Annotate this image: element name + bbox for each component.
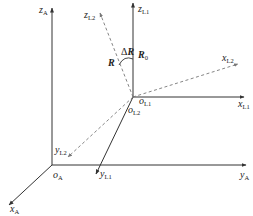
delta-r-label: ΔR: [121, 46, 134, 57]
yl1-label: yL1: [99, 168, 112, 180]
xl2-axis: [133, 64, 238, 97]
coordinate-frames-diagram: zA yA xA oA zL1 xL1 yL1 oL1 zL2 xL2 yL2 …: [0, 0, 253, 216]
zl1-label: zL1: [137, 3, 149, 15]
r0-label: R0: [137, 49, 148, 61]
xl2-label: xL2: [221, 52, 234, 64]
yl2-label: yL2: [54, 144, 67, 156]
frame-l2: zL2 xL2 yL2 oL2: [54, 9, 238, 157]
xa-axis: [9, 165, 52, 205]
xa-label: xA: [9, 203, 19, 215]
xl1-label: xL1: [237, 98, 250, 110]
oa-label: oA: [53, 169, 63, 181]
ya-label: yA: [239, 169, 249, 181]
rotation-annotation: R ΔR R0: [107, 46, 148, 68]
zl2-label: zL2: [83, 9, 95, 21]
za-label: zA: [38, 4, 48, 16]
delta-r-arc: [119, 58, 133, 65]
frame-l1: zL1 xL1 yL1 oL1: [96, 3, 250, 180]
yl2-axis: [68, 97, 133, 157]
r-label: R: [107, 57, 115, 68]
